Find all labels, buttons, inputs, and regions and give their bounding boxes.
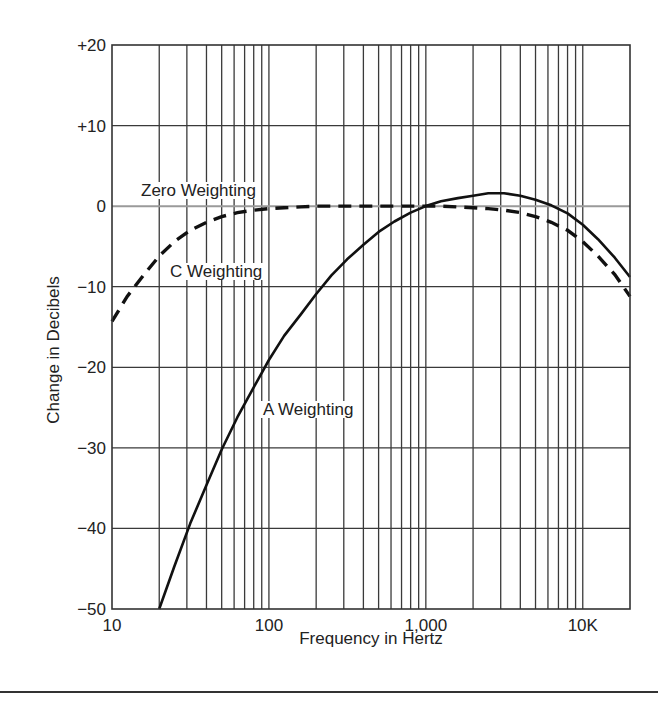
vertical-gridlines bbox=[159, 45, 583, 609]
y-tick-label: +10 bbox=[77, 117, 106, 136]
y-tick-label: +20 bbox=[77, 36, 106, 55]
x-tick-label: 100 bbox=[255, 616, 283, 635]
x-tick-label: 10K bbox=[568, 616, 599, 635]
y-tick-label: −10 bbox=[77, 278, 106, 297]
y-axis-title: Change in Decibels bbox=[44, 276, 63, 423]
x-tick-label: 10 bbox=[103, 616, 122, 635]
a-weighting-curve bbox=[159, 193, 630, 609]
bottom-rule bbox=[0, 691, 658, 693]
weighting-chart: +20+100−10−20−30−40−50 101001,00010K Fre… bbox=[0, 0, 658, 703]
x-axis-title: Frequency in Hertz bbox=[299, 629, 443, 648]
zero-weighting-label: Zero Weighting bbox=[141, 181, 256, 200]
y-tick-label: −30 bbox=[77, 439, 106, 458]
a-weighting-label: A Weighting bbox=[263, 400, 353, 419]
y-tick-label: −20 bbox=[77, 358, 106, 377]
y-axis-tick-labels: +20+100−10−20−30−40−50 bbox=[77, 36, 106, 619]
c-weighting-label: C Weighting bbox=[170, 262, 262, 281]
curve-label-backgrounds bbox=[138, 182, 356, 418]
y-tick-label: 0 bbox=[97, 197, 106, 216]
y-tick-label: −40 bbox=[77, 519, 106, 538]
